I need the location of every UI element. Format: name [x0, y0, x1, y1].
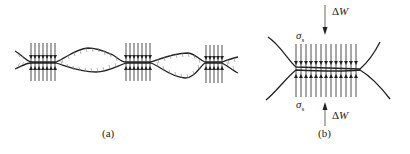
panel-a [15, 43, 238, 83]
load-variable: W [339, 5, 348, 17]
lower-surface-curve [15, 63, 238, 78]
load-label-bottom: ΔW [332, 109, 348, 121]
caption-a: (a) [102, 127, 114, 139]
load-arrow-top [323, 5, 328, 35]
contact-diagram [0, 0, 410, 154]
stress-label-top: σs [296, 29, 304, 44]
load-variable: W [339, 109, 348, 121]
lower-surface-curve-b [266, 70, 390, 100]
stress-subscript: s [301, 105, 304, 113]
panel-b [266, 5, 390, 126]
stress-label-bottom: σs [296, 98, 304, 113]
load-arrow-bottom [323, 102, 328, 126]
stress-subscript: s [301, 36, 304, 44]
upper-surface-curve-b [268, 37, 380, 69]
load-label-top: ΔW [332, 5, 348, 17]
contact-junction-3 [206, 45, 222, 83]
caption-b: (b) [318, 127, 331, 139]
contact-junction-2 [126, 43, 150, 81]
